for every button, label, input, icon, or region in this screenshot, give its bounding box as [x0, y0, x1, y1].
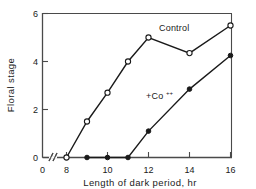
- y-tick-label-6: 6: [33, 9, 38, 19]
- y-tick-label-4: 4: [33, 57, 38, 67]
- y-axis-title: Floral stage: [5, 58, 16, 112]
- chart-figure: 0 2 4 6 Floral stage 0 8 10 12 14 16: [0, 0, 256, 189]
- x-axis-title: Length of dark period, hr: [83, 177, 197, 188]
- data-point-cobalt-16: [228, 53, 233, 58]
- x-tick-label-14: 14: [184, 165, 194, 175]
- series-label-cobalt-superscript: ++: [166, 90, 174, 96]
- data-point-cobalt-10: [105, 155, 110, 160]
- data-point-control-8: [64, 155, 69, 160]
- data-point-control-10: [105, 90, 110, 95]
- chart-background: [0, 0, 256, 189]
- data-point-cobalt-12: [146, 129, 151, 134]
- data-point-cobalt-14: [187, 87, 192, 92]
- data-point-cobalt-11: [126, 155, 131, 160]
- y-tick-label-2: 2: [33, 105, 38, 115]
- data-point-control-11: [125, 59, 130, 64]
- data-point-control-16: [228, 23, 233, 28]
- data-point-control-14: [187, 51, 192, 56]
- data-point-cobalt-9: [85, 155, 90, 160]
- series-label-control: Control: [159, 23, 189, 33]
- floral-stage-line-chart: 0 2 4 6 Floral stage 0 8 10 12 14 16: [0, 0, 256, 189]
- x-tick-label-0: 0: [40, 165, 45, 175]
- y-tick-label-0: 0: [33, 153, 38, 163]
- data-point-control-12: [146, 35, 151, 40]
- x-tick-label-12: 12: [143, 165, 153, 175]
- series-label-cobalt-base: +Co: [146, 91, 163, 101]
- data-point-control-9: [84, 119, 89, 124]
- x-tick-label-10: 10: [102, 165, 112, 175]
- x-tick-label-16: 16: [225, 165, 235, 175]
- x-tick-label-8: 8: [64, 165, 69, 175]
